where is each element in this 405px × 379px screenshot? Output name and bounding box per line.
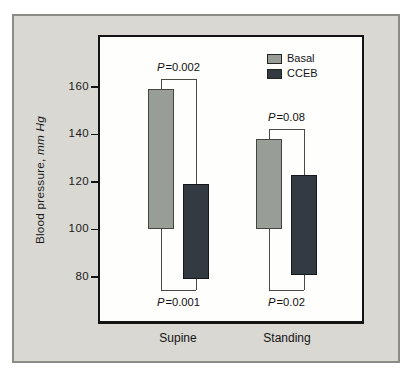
p-value-label: P=0.001 [134,296,224,308]
y-tick-mark [91,181,98,183]
y-axis-label-units: mm Hg [33,115,47,154]
legend-label: CCEB [287,68,318,79]
y-tick-label: 160 [49,80,89,92]
significance-bracket [196,279,197,290]
p-value-label: P=0.002 [134,61,224,73]
y-tick-mark [91,229,98,231]
significance-bracket [304,129,305,175]
significance-bracket [161,79,196,80]
legend-swatch-cceb [267,69,282,79]
significance-bracket [196,79,197,184]
significance-bracket [269,229,270,290]
legend-item: Basal [267,53,318,64]
x-axis-label-supine: Supine [133,331,223,345]
y-tick-label: 120 [49,175,89,187]
bar-standing-basal [256,139,282,229]
legend: BasalCCEB [267,53,318,79]
bar-supine-basal [148,89,174,229]
legend-item: CCEB [267,68,318,79]
figure-canvas: Blood pressure, mm Hg BasalCCEB 16014012… [0,0,405,379]
y-tick-label: 80 [49,270,89,282]
plot-area [98,35,364,324]
p-value-label: P=0.02 [242,296,332,308]
x-axis-label-standing: Standing [242,331,332,345]
p-value-label: P=0.08 [242,111,332,123]
significance-bracket [161,290,196,291]
y-tick-mark [91,134,98,136]
y-axis-label-text: Blood pressure, [33,154,47,243]
bar-supine-cceb [183,184,209,279]
bar-standing-cceb [291,175,317,275]
legend-swatch-basal [267,54,282,64]
significance-bracket [161,79,162,89]
significance-bracket [304,275,305,291]
y-tick-label: 100 [49,222,89,234]
significance-bracket [269,290,304,291]
legend-label: Basal [287,53,315,64]
significance-bracket [269,129,270,139]
y-tick-mark [91,276,98,278]
significance-bracket [269,129,304,130]
y-tick-mark [91,86,98,88]
significance-bracket [161,229,162,290]
y-tick-label: 140 [49,127,89,139]
